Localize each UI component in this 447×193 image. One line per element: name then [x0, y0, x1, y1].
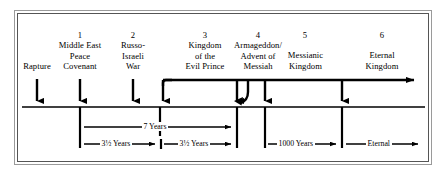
duration-label-7-years: 7 Years — [142, 122, 168, 131]
timeline-graphics — [0, 0, 447, 193]
timeline-left-corner — [163, 80, 172, 86]
duration-label-3-5-years-second: 3½ Years — [178, 139, 210, 148]
duration-label-3-5-years-first: 3½ Years — [100, 139, 132, 148]
timeline-diagram: 1 2 3 4 5 6 Rapture Middle East Peace Co… — [0, 0, 447, 193]
duration-label-eternal: Eternal — [366, 139, 392, 148]
duration-label-1000-years: 1000 Years — [277, 139, 315, 148]
event-arrow-4-curved-head — [234, 97, 243, 106]
